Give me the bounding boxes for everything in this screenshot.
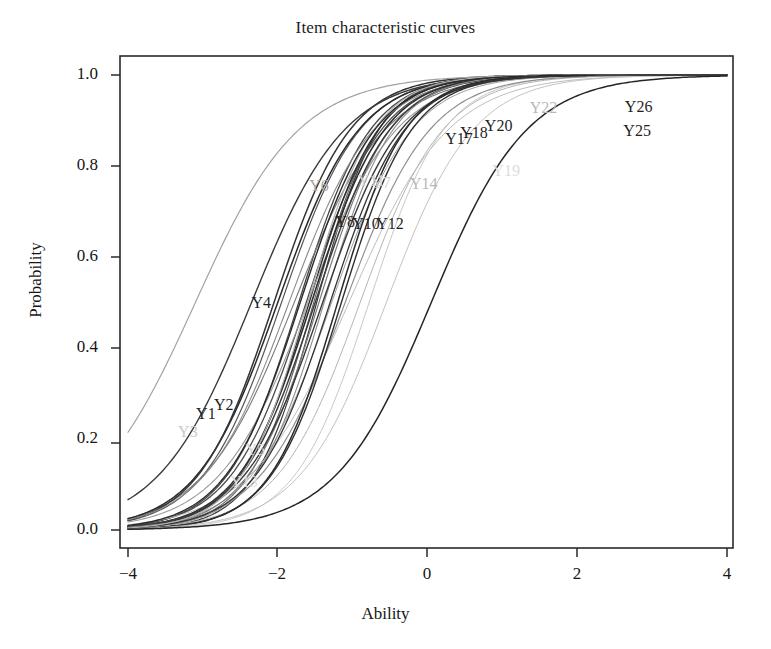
y-tick-label: 1.0 xyxy=(46,64,98,84)
curve-label-y1: Y1 xyxy=(196,405,216,423)
curve-label-y18: Y18 xyxy=(460,124,488,142)
curve-label-y20: Y20 xyxy=(485,117,513,135)
y-tick-label: 0.8 xyxy=(46,155,98,175)
x-tick-label: −2 xyxy=(257,564,297,584)
x-axis-title: Ability xyxy=(0,604,771,624)
curve-label-y25: Y25 xyxy=(623,122,651,140)
curve-label-y26: Y26 xyxy=(625,98,653,116)
curve-label-y3: Y3 xyxy=(178,423,198,441)
curve-label-y12: Y12 xyxy=(376,215,404,233)
curve-label-y14: Y14 xyxy=(410,175,438,193)
curve-label-y6: Y6 xyxy=(309,177,329,195)
x-tick-label: 2 xyxy=(557,564,597,584)
y-tick-label: 0.2 xyxy=(46,428,98,448)
curve-label-y22: Y22 xyxy=(530,99,558,117)
plot-area xyxy=(0,0,771,649)
y-tick-label: 0.4 xyxy=(46,337,98,357)
curve-label-y11: Y11 xyxy=(358,172,385,190)
y-tick-label: 0.0 xyxy=(46,519,98,539)
curve-label-y13: Y13 xyxy=(230,473,258,491)
curve-label-y5: Y5 xyxy=(246,441,266,459)
y-tick-label: 0.6 xyxy=(46,246,98,266)
y-axis-title: Probability xyxy=(26,200,46,360)
x-tick-label: 0 xyxy=(407,564,447,584)
curve-label-y19: Y19 xyxy=(492,162,520,180)
curve-label-y2: Y2 xyxy=(214,396,234,414)
x-tick-label: −4 xyxy=(108,564,148,584)
x-tick-label: 4 xyxy=(707,564,747,584)
chart-root: Item characteristic curves 0.00.20.40.60… xyxy=(0,0,771,649)
curve-label-y4: Y4 xyxy=(251,294,271,312)
